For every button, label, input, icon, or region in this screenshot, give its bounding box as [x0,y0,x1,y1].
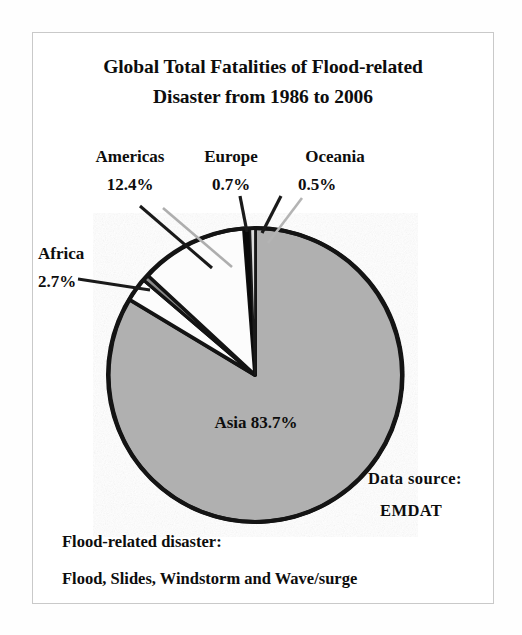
slice-label-europe-value: 0.7% [190,174,272,196]
slice-label-oceania: Oceania 0.5% [290,146,380,196]
slice-label-africa-name: Africa [38,243,146,265]
figure-root: Global Total Fatalities of Flood-related… [0,0,522,635]
slice-label-europe: Europe 0.7% [190,146,272,196]
slice-label-africa: Africa 2.7% [38,243,146,293]
slice-label-americas-name: Americas [76,146,184,168]
slice-label-asia-name: Asia [214,413,246,432]
slice-label-asia: Asia 83.7% [196,412,316,434]
definition-value: Flood, Slides, Windstorm and Wave/surge [62,568,357,590]
slice-label-oceania-name: Oceania [290,146,380,168]
slice-label-europe-name: Europe [190,146,272,168]
definition-label: Flood-related disaster: [62,531,222,553]
slice-label-asia-value: 83.7% [251,413,298,432]
slice-label-africa-value: 2.7% [38,271,146,293]
data-source-value: EMDAT [380,500,442,522]
slice-label-americas-value: 12.4% [76,174,184,196]
slice-label-oceania-value: 0.5% [290,174,380,196]
slice-label-americas: Americas 12.4% [76,146,184,196]
data-source-label: Data source: [368,468,462,490]
